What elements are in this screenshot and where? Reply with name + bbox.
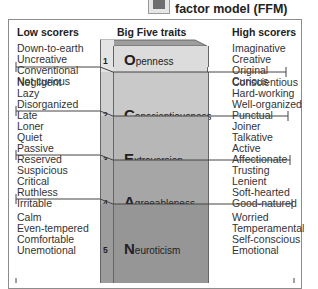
row-dividers: [0, 0, 318, 283]
